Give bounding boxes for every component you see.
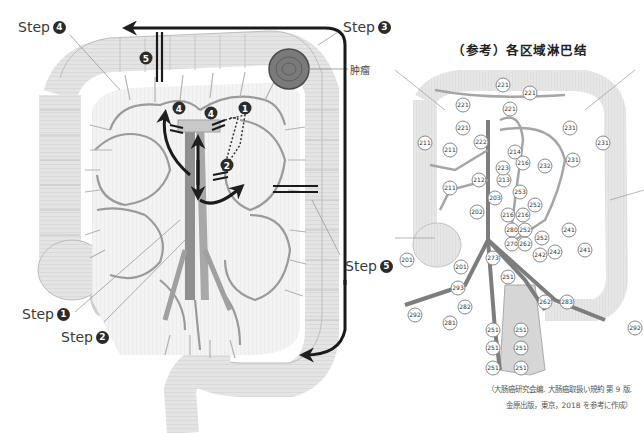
svg-text:262: 262 (539, 298, 551, 305)
step1-label: Step 1 (22, 306, 70, 322)
svg-text:201: 201 (401, 256, 413, 263)
svg-text:231: 231 (597, 139, 609, 146)
svg-text:216: 216 (517, 159, 529, 166)
step-number-badge: 4 (53, 21, 66, 34)
svg-text:262: 262 (519, 240, 531, 247)
step-text: Step (343, 19, 375, 35)
step-number-badge: 3 (378, 21, 391, 34)
colon-illustration (38, 31, 339, 433)
step5-label: Step 5 (345, 258, 393, 274)
svg-text:293: 293 (452, 284, 464, 291)
svg-text:203: 203 (489, 194, 501, 201)
svg-text:252: 252 (519, 226, 531, 233)
step-text: Step (18, 19, 50, 35)
colon-surgery-steps-diagram: 5 4 4 1 2 (0, 0, 400, 433)
svg-text:2: 2 (224, 161, 230, 171)
svg-text:214: 214 (509, 148, 521, 155)
svg-text:213: 213 (498, 176, 510, 183)
svg-text:241: 241 (563, 226, 575, 233)
svg-text:221: 221 (457, 101, 469, 108)
svg-text:251: 251 (502, 273, 514, 280)
svg-text:211: 211 (444, 184, 456, 191)
svg-text:242: 242 (549, 248, 561, 255)
svg-text:201: 201 (455, 263, 467, 270)
tumor-label: 肿瘤 (350, 62, 370, 77)
svg-text:202: 202 (471, 208, 483, 215)
svg-text:251: 251 (487, 344, 499, 351)
svg-text:221: 221 (504, 105, 516, 112)
svg-text:216: 216 (517, 211, 529, 218)
step-text: Step (22, 306, 54, 322)
svg-text:282: 282 (459, 303, 471, 310)
svg-text:252: 252 (536, 234, 548, 241)
step-number-badge: 1 (57, 308, 70, 321)
step-number-badge: 2 (96, 331, 109, 344)
svg-text:252: 252 (529, 201, 541, 208)
svg-text:211: 211 (444, 146, 456, 153)
step3-label: Step 3 (343, 19, 391, 35)
svg-text:273: 273 (487, 254, 499, 261)
svg-text:251: 251 (487, 364, 499, 371)
svg-text:4: 4 (176, 104, 182, 114)
svg-text:253: 253 (514, 188, 526, 195)
step2-label: Step 2 (61, 329, 109, 345)
citation-caption: （大肠癌研究会编. 大肠癌取扱い規約 第 9 版. 金原出版，東京，2018 を… (420, 382, 632, 414)
svg-text:251: 251 (515, 326, 527, 333)
step4-label: Step 4 (18, 19, 66, 35)
svg-text:222: 222 (475, 138, 487, 145)
svg-text:211: 211 (419, 139, 431, 146)
tumor (269, 49, 309, 89)
svg-text:251: 251 (515, 364, 527, 371)
svg-text:242: 242 (534, 251, 546, 258)
caption-line-2: 金原出版，東京，2018 を参考に作成） (420, 398, 632, 414)
svg-text:221: 221 (497, 81, 509, 88)
svg-text:216: 216 (502, 211, 514, 218)
svg-text:223: 223 (497, 164, 509, 171)
step-number-badge: 5 (380, 260, 393, 273)
step-text: Step (61, 329, 93, 345)
svg-text:283: 283 (561, 298, 573, 305)
svg-text:221: 221 (524, 89, 536, 96)
svg-text:280: 280 (506, 226, 518, 233)
svg-text:1: 1 (242, 104, 248, 114)
right-figure-title: （参考）各区域淋巴结 (452, 40, 587, 59)
svg-text:231: 231 (564, 124, 576, 131)
svg-text:231: 231 (567, 156, 579, 163)
svg-text:251: 251 (487, 326, 499, 333)
svg-text:251: 251 (515, 344, 527, 351)
svg-text:270: 270 (506, 240, 518, 247)
svg-text:292: 292 (409, 311, 421, 318)
regional-lymph-nodes-diagram: 221 221 221 221 221 231 231 231 222 211 … (395, 70, 644, 390)
svg-text:212: 212 (473, 176, 485, 183)
caption-line-1: （大肠癌研究会编. 大肠癌取扱い規約 第 9 版. (420, 382, 632, 398)
svg-text:281: 281 (444, 319, 456, 326)
svg-text:4: 4 (208, 109, 214, 119)
svg-text:292: 292 (629, 324, 641, 331)
svg-text:5: 5 (143, 54, 149, 64)
svg-text:232: 232 (539, 162, 551, 169)
svg-text:221: 221 (457, 124, 469, 131)
step-text: Step (345, 258, 377, 274)
svg-text:241: 241 (579, 246, 591, 253)
